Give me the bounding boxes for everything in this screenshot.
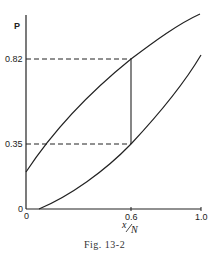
x-tick-06-label: 0.6 — [125, 212, 138, 222]
chart: P 0.82 0.35 0 0 0.6 1.0 x N Fig. 13-2 — [0, 0, 209, 254]
y-tick-0: 0 — [18, 204, 23, 214]
y-tick-082: 0.82 — [5, 54, 23, 64]
x-axis-label-numerator: x — [121, 219, 127, 230]
x-tick-10-label: 1.0 — [195, 212, 208, 222]
y-axis-label: P — [14, 21, 20, 31]
y-tick-035: 0.35 — [5, 139, 23, 149]
upper-curve — [26, 14, 200, 172]
lower-curve — [39, 55, 201, 209]
x-axis-label-denominator: N — [130, 224, 139, 235]
figure-caption: Fig. 13-2 — [84, 239, 125, 250]
x-tick-0: 0 — [24, 211, 29, 221]
